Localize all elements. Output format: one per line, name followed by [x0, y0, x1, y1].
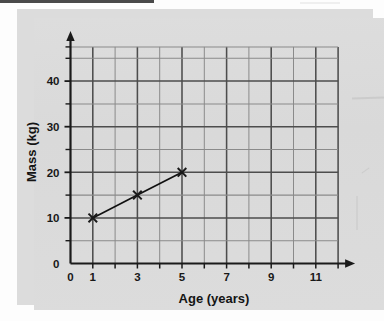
y-axis-title: Mass (kg) [24, 122, 39, 182]
grid-vertical-major [93, 47, 338, 264]
x-axis-arrowhead [345, 259, 355, 267]
y-axis-tick-label: 40 [47, 75, 60, 87]
mass-vs-age-line-chart: 01357911 010203040 Age (years) Mass (kg) [0, 0, 384, 321]
y-axis-arrowhead [66, 31, 74, 41]
x-axis-tick-label: 3 [134, 271, 140, 283]
x-axis-tick-label: 9 [268, 271, 274, 283]
x-axis-tick-label: 11 [310, 271, 323, 283]
x-axis-tick-label: 5 [179, 271, 186, 283]
y-axis-tick-labels: 010203040 [47, 75, 60, 269]
y-axis-tick-label: 10 [47, 212, 60, 224]
y-axis-tick-label: 30 [47, 121, 60, 133]
x-axis-tick-labels: 01357911 [67, 271, 322, 283]
y-axis-tick-label: 0 [53, 258, 59, 270]
x-axis-tick-label: 7 [223, 271, 229, 283]
x-axis-title: Age (years) [179, 291, 250, 306]
x-axis-tick-label: 0 [67, 271, 73, 283]
grid-vertical-minor [115, 47, 293, 264]
y-axis-tick-label: 20 [47, 167, 60, 179]
x-axis-tick-label: 1 [90, 271, 97, 283]
